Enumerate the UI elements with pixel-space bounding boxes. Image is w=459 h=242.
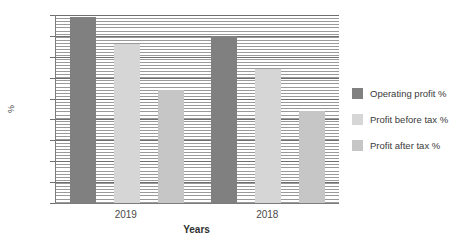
- bar: [299, 111, 325, 203]
- x-tick-label: 2019: [96, 209, 156, 220]
- bar: [211, 36, 237, 203]
- legend-swatch-icon: [352, 140, 363, 151]
- y-axis-title: %: [6, 100, 16, 118]
- bar-chart: % 0123456789 Years Operating profit %Pro…: [0, 0, 459, 242]
- legend: Operating profit %Profit before tax %Pro…: [352, 80, 448, 158]
- bar: [114, 44, 140, 203]
- legend-swatch-icon: [352, 88, 363, 99]
- bar: [255, 69, 281, 203]
- x-tick-label: 2018: [237, 209, 297, 220]
- bar: [70, 17, 96, 203]
- legend-swatch-icon: [352, 114, 363, 125]
- plot-area: [55, 15, 339, 204]
- legend-label: Profit before tax %: [370, 114, 448, 125]
- legend-item[interactable]: Profit after tax %: [352, 132, 448, 158]
- x-axis-title: Years: [55, 224, 338, 235]
- legend-item[interactable]: Operating profit %: [352, 80, 448, 106]
- bar: [158, 90, 184, 203]
- legend-label: Operating profit %: [370, 88, 447, 99]
- bar-series-container: [56, 15, 339, 203]
- legend-label: Profit after tax %: [370, 140, 440, 151]
- legend-item[interactable]: Profit before tax %: [352, 106, 448, 132]
- plot-inner: [56, 15, 339, 203]
